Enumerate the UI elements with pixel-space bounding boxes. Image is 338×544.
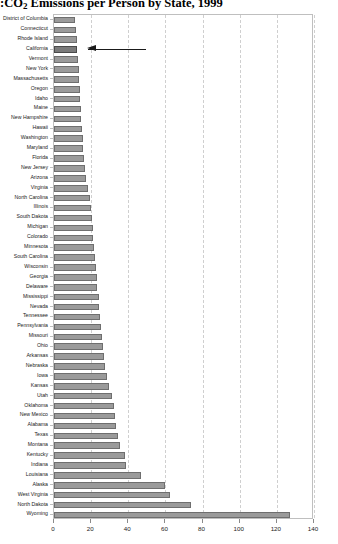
y-axis-label-missouri: Missouri	[29, 333, 48, 338]
bar-alabama	[54, 423, 116, 430]
bar-nebraska	[54, 363, 105, 370]
y-axis-label-massachusetts: Massachusetts	[13, 76, 48, 81]
bar-arizona	[54, 175, 86, 182]
bar-maryland	[54, 145, 83, 152]
bar-row	[54, 411, 312, 421]
bar-row	[54, 94, 312, 104]
bar-wyoming	[54, 512, 290, 519]
annotation-arrow-head	[87, 45, 96, 51]
plot-area	[53, 14, 313, 519]
y-axis-label-mississippi: Mississippi	[23, 294, 48, 299]
bar-row	[54, 431, 312, 441]
bar-rhode-island	[54, 36, 77, 43]
bar-row	[54, 272, 312, 282]
bar-kansas	[54, 383, 109, 390]
bar-north-carolina	[54, 195, 90, 202]
bar-row	[54, 470, 312, 480]
y-axis-label-delaware: Delaware	[26, 284, 48, 289]
bar-row	[54, 332, 312, 342]
y-axis-label-texas: Texas	[34, 432, 48, 437]
bar-row	[54, 223, 312, 233]
bar-row	[54, 15, 312, 25]
y-axis-label-nevada: Nevada	[30, 304, 48, 309]
bar-illinois	[54, 205, 91, 212]
bar-row	[54, 124, 312, 134]
y-axis-label-colorado: Colorado	[27, 234, 48, 239]
x-axis-tick-0	[53, 519, 54, 523]
bar-arkansas	[54, 353, 104, 360]
x-axis-tick-20	[90, 519, 91, 523]
y-axis-label-tennessee: Tennessee	[23, 313, 48, 318]
bar-michigan	[54, 225, 93, 232]
x-axis-label-40: 40	[124, 525, 131, 532]
bar-row	[54, 154, 312, 164]
bar-louisiana	[54, 472, 141, 479]
bar-row	[54, 441, 312, 451]
bar-row	[54, 263, 312, 273]
bar-row	[54, 35, 312, 45]
bar-montana	[54, 442, 120, 449]
bar-kentucky	[54, 452, 125, 459]
bar-row	[54, 352, 312, 362]
bar-delaware	[54, 284, 97, 291]
y-axis-label-arkansas: Arkansas	[26, 353, 48, 358]
y-axis-label-kansas: Kansas	[31, 383, 48, 388]
chart-title: :CO2 Emissions per Person by State, 1999	[0, 0, 223, 11]
bar-row	[54, 84, 312, 94]
x-axis-label-120: 120	[271, 525, 281, 532]
bar-west-virginia	[54, 492, 170, 499]
y-axis-label-california: California	[26, 46, 48, 51]
bar-row	[54, 233, 312, 243]
bar-row	[54, 302, 312, 312]
bar-row	[54, 342, 312, 352]
bar-south-carolina	[54, 254, 95, 261]
y-axis-label-west-virginia: West Virginia	[18, 492, 48, 497]
y-axis-label-south-carolina: South Carolina	[14, 254, 48, 259]
title-main-a: CO	[4, 0, 23, 10]
bar-row	[54, 253, 312, 263]
bar-pennsylvania	[54, 324, 101, 331]
y-axis-label-wisconsin: Wisconsin	[24, 264, 48, 269]
y-axis-label-iowa: Iowa	[37, 373, 48, 378]
bar-new-york	[54, 66, 79, 73]
y-axis-label-wyoming: Wyoming	[26, 511, 48, 516]
y-axis-label-new-jersey: New Jersey	[21, 165, 48, 170]
y-axis-label-maine: Maine	[34, 105, 48, 110]
bar-nevada	[54, 304, 99, 311]
bar-connecticut	[54, 27, 76, 34]
title-main-b: Emissions per Person by State, 1999	[27, 0, 222, 10]
bar-row	[54, 164, 312, 174]
y-axis-label-ohio: Ohio	[37, 343, 48, 348]
y-axis-label-alabama: Alabama	[28, 422, 48, 427]
bar-row	[54, 104, 312, 114]
x-axis-tick-120	[276, 519, 277, 523]
bar-florida	[54, 155, 84, 162]
bar-south-dakota	[54, 215, 92, 222]
x-axis-tick-80	[202, 519, 203, 523]
bar-mississippi	[54, 294, 99, 301]
y-axis-label-arizona: Arizona	[30, 175, 48, 180]
bar-texas	[54, 433, 118, 440]
bar-row	[54, 461, 312, 471]
y-axis-label-south-dakota: South Dakota	[17, 214, 48, 219]
y-axis-label-illinois: Illinois	[34, 204, 48, 209]
y-axis-label-connecticut: Connecticut	[21, 26, 48, 31]
bar-minnesota	[54, 244, 94, 251]
bar-california	[54, 46, 77, 53]
bar-row	[54, 401, 312, 411]
bar-oregon	[54, 86, 80, 93]
bar-hawaii	[54, 126, 82, 133]
bar-row	[54, 292, 312, 302]
bar-new-jersey	[54, 165, 85, 172]
bar-row	[54, 25, 312, 35]
bar-row	[54, 490, 312, 500]
y-axis-label-washington: Washington	[21, 135, 48, 140]
bar-washington	[54, 135, 83, 142]
bar-new-hampshire	[54, 116, 81, 123]
bar-wisconsin	[54, 264, 96, 271]
bar-row	[54, 203, 312, 213]
bar-virginia	[54, 185, 88, 192]
bar-oklahoma	[54, 403, 114, 410]
bar-tennessee	[54, 314, 100, 321]
x-axis: 020406080100120140	[53, 519, 313, 541]
